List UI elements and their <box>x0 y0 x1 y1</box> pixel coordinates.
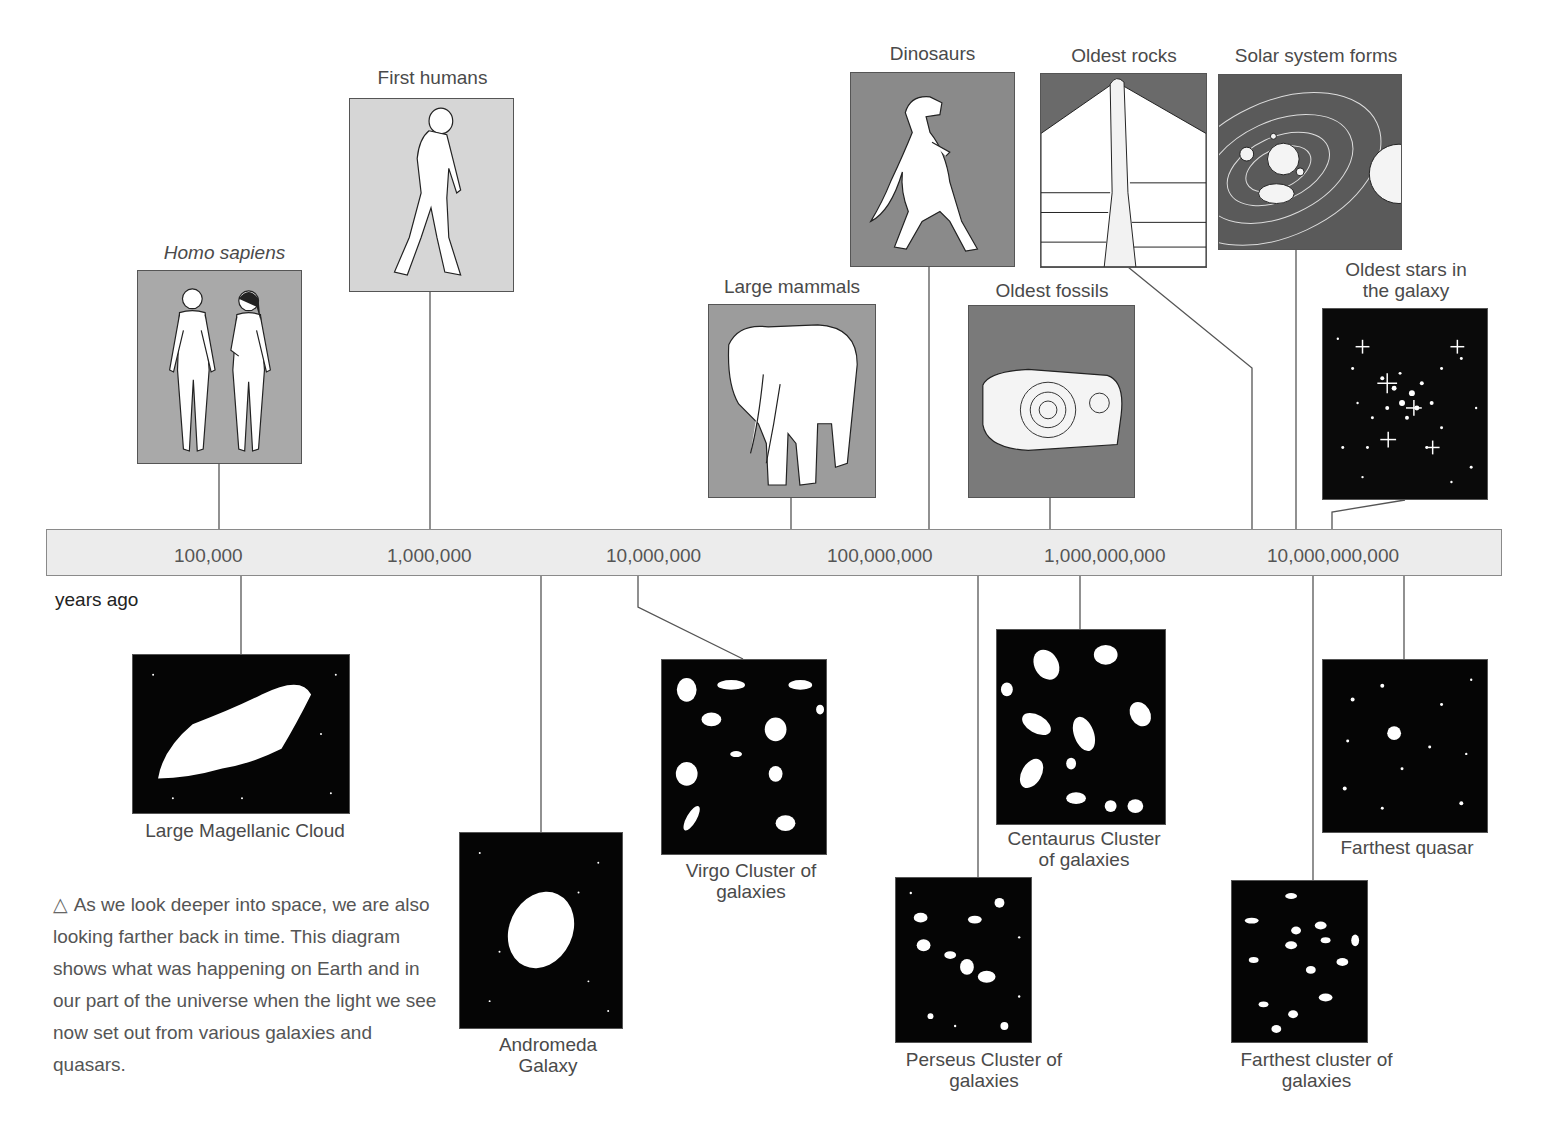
label-farthest-cluster-line1: Farthest cluster of <box>1214 1049 1419 1070</box>
volcano-icon <box>1041 74 1206 267</box>
label-large-mammals: Large mammals <box>708 276 876 297</box>
label-andromeda-line2: Galaxy <box>459 1055 637 1076</box>
caption: △As we look deeper into space, we are al… <box>53 889 443 1081</box>
triangle-icon: △ <box>53 894 68 915</box>
farthest-cluster-image <box>1231 880 1368 1043</box>
tick-100k: 100,000 <box>174 545 243 567</box>
humans-icon <box>138 271 301 463</box>
label-oldest-fossils: Oldest fossils <box>968 280 1136 301</box>
caption-text: As we look deeper into space, we are als… <box>53 894 436 1075</box>
label-andromeda-line1: Andromeda <box>459 1034 637 1055</box>
quasar-icon <box>1323 660 1487 832</box>
first-humans-illustration <box>349 98 514 292</box>
andromeda-galaxy-image <box>459 832 623 1029</box>
large-mammals-illustration <box>708 304 876 498</box>
oldest-fossils-illustration <box>968 305 1135 498</box>
label-large-magellanic-cloud: Large Magellanic Cloud <box>120 820 370 841</box>
label-perseus-line1: Perseus Cluster of <box>880 1049 1088 1070</box>
oldest-stars-image <box>1322 308 1488 500</box>
label-solar-system-forms: Solar system forms <box>1218 45 1414 66</box>
spiral-galaxy-icon <box>460 833 622 1028</box>
farthest-quasar-image <box>1322 659 1488 833</box>
label-homo-sapiens: Homo sapiens <box>137 242 312 263</box>
tick-1m: 1,000,000 <box>387 545 472 567</box>
perseus-cluster-image <box>895 877 1032 1043</box>
tick-1b: 1,000,000,000 <box>1044 545 1166 567</box>
label-centaurus-line1: Centaurus Cluster <box>996 828 1172 849</box>
label-virgo-line1: Virgo Cluster of <box>661 860 841 881</box>
label-first-humans: First humans <box>350 67 515 88</box>
label-oldest-rocks: Oldest rocks <box>1040 45 1208 66</box>
label-virgo-line2: galaxies <box>661 881 841 902</box>
tick-10b: 10,000,000,000 <box>1267 545 1399 567</box>
solar-system-illustration <box>1218 74 1402 250</box>
label-farthest-cluster-line2: galaxies <box>1214 1070 1419 1091</box>
virgo-cluster-image <box>661 659 827 855</box>
star-cluster-icon <box>1323 309 1487 499</box>
label-centaurus-line2: of galaxies <box>996 849 1172 870</box>
axis-unit-label: years ago <box>55 589 138 611</box>
galaxy-cluster-icon <box>662 660 826 854</box>
galaxy-cluster-icon <box>1232 881 1367 1042</box>
label-dinosaurs: Dinosaurs <box>850 43 1015 64</box>
label-oldest-stars-line2: the galaxy <box>1322 280 1490 301</box>
tick-10m: 10,000,000 <box>606 545 701 567</box>
galaxy-cluster-icon <box>997 630 1165 824</box>
galaxy-cluster-icon <box>896 878 1031 1042</box>
solar-system-icon <box>1219 75 1401 249</box>
large-magellanic-cloud-image <box>132 654 350 814</box>
fossil-icon <box>969 306 1134 497</box>
label-perseus-line2: galaxies <box>880 1070 1088 1091</box>
elephant-icon <box>709 305 875 497</box>
early-human-icon <box>350 99 513 291</box>
label-farthest-quasar: Farthest quasar <box>1322 837 1492 858</box>
dinosaurs-illustration <box>850 72 1015 267</box>
oldest-rocks-illustration <box>1040 73 1207 268</box>
label-oldest-stars-line1: Oldest stars in <box>1322 259 1490 280</box>
homo-sapiens-illustration <box>137 270 302 464</box>
dinosaur-icon <box>851 73 1014 266</box>
irregular-galaxy-icon <box>133 655 349 813</box>
tick-100m: 100,000,000 <box>827 545 933 567</box>
centaurus-cluster-image <box>996 629 1166 825</box>
